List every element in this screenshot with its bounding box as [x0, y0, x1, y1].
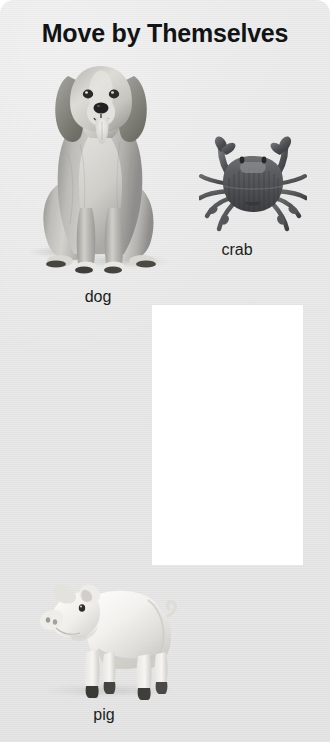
activity-screen: Move by Themselves: [0, 0, 330, 742]
item-label-crab: crab: [214, 241, 260, 259]
dog-photo: [18, 58, 178, 286]
item-pig[interactable]: [36, 556, 182, 704]
page-title: Move by Themselves: [0, 19, 330, 47]
dropzone-answer-box[interactable]: [152, 305, 303, 565]
item-label-dog: dog: [78, 288, 118, 306]
crab-photo: [199, 136, 307, 236]
item-crab[interactable]: [199, 136, 307, 236]
item-label-pig: pig: [84, 706, 124, 724]
pig-photo: [36, 556, 182, 704]
item-dog[interactable]: [18, 58, 178, 286]
